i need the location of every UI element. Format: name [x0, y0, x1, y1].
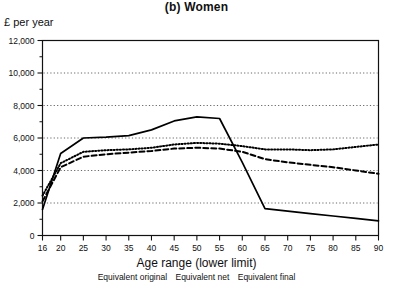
svg-text:12,000: 12,000 — [9, 36, 35, 46]
plot-area: 02,0004,0006,0008,00010,00012,000 162025… — [0, 0, 393, 289]
series-line-equivalent-final — [43, 148, 379, 202]
svg-text:0: 0 — [30, 231, 35, 241]
svg-text:45: 45 — [169, 243, 179, 253]
svg-text:60: 60 — [238, 243, 248, 253]
legend-item-equivalent-original: Equivalent original — [98, 272, 167, 282]
svg-text:50: 50 — [192, 243, 202, 253]
svg-text:8,000: 8,000 — [13, 101, 35, 111]
x-axis-ticks: 16202530354045505560657075808590 — [38, 236, 384, 254]
legend-item-equivalent-final: Equivalent final — [238, 272, 296, 282]
svg-text:6,000: 6,000 — [13, 133, 35, 143]
x-axis-label: Age range (lower limit) — [0, 256, 393, 270]
svg-text:75: 75 — [306, 243, 316, 253]
svg-text:85: 85 — [351, 243, 361, 253]
chart-figure: (b) Women £ per year 02,0004,0006,0008,0… — [0, 0, 393, 289]
svg-text:2,000: 2,000 — [13, 198, 35, 208]
data-series-group — [43, 117, 379, 221]
gridlines — [44, 41, 378, 204]
svg-text:40: 40 — [147, 243, 157, 253]
svg-text:10,000: 10,000 — [9, 68, 35, 78]
svg-text:16: 16 — [38, 243, 48, 253]
series-line-equivalent-original — [43, 117, 379, 221]
legend-item-equivalent-net: Equivalent net — [175, 272, 229, 282]
svg-text:80: 80 — [328, 243, 338, 253]
svg-text:70: 70 — [283, 243, 293, 253]
y-axis-ticks: 02,0004,0006,0008,00010,00012,000 — [9, 36, 43, 241]
svg-text:90: 90 — [374, 243, 384, 253]
svg-text:25: 25 — [79, 243, 89, 253]
series-line-equivalent-net — [43, 143, 379, 196]
svg-text:55: 55 — [215, 243, 225, 253]
svg-text:65: 65 — [260, 243, 270, 253]
chart-legend: Equivalent original Equivalent net Equiv… — [0, 272, 393, 283]
svg-text:4,000: 4,000 — [13, 166, 35, 176]
svg-text:35: 35 — [124, 243, 134, 253]
svg-text:20: 20 — [56, 243, 66, 253]
svg-text:30: 30 — [101, 243, 111, 253]
